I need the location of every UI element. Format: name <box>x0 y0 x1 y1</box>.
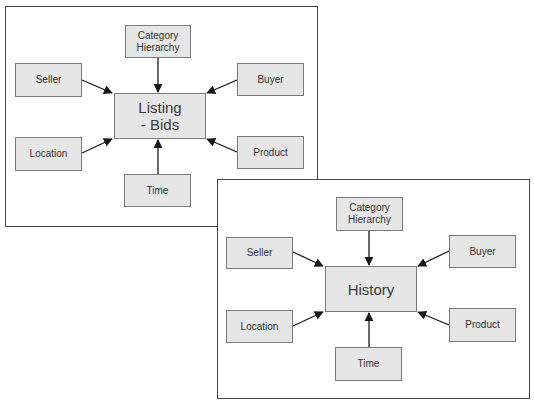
node-location: Location <box>15 137 82 171</box>
node-location: Location <box>226 310 293 343</box>
node-category-hierarchy: Category Hierarchy <box>125 25 191 58</box>
node-listing-bids: Listing - Bids <box>114 93 206 139</box>
node-buyer: Buyer <box>237 63 304 96</box>
node-seller: Seller <box>15 63 82 97</box>
node-buyer: Buyer <box>449 235 516 268</box>
node-time: Time <box>124 174 191 207</box>
node-category-hierarchy: Category Hierarchy <box>336 197 403 231</box>
node-product: Product <box>237 136 304 169</box>
node-time: Time <box>335 347 402 381</box>
node-seller: Seller <box>226 237 293 269</box>
node-product: Product <box>449 308 516 342</box>
node-history: History <box>325 266 417 312</box>
